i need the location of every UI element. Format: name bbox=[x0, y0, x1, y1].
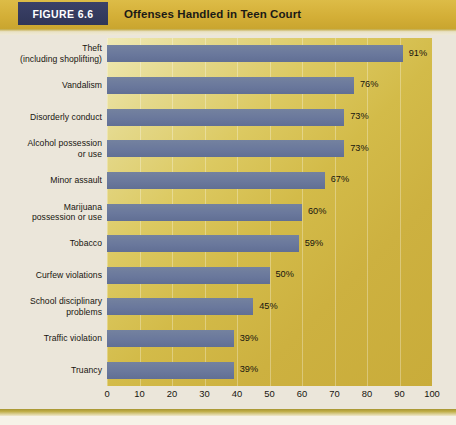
bottom-divider bbox=[0, 409, 456, 416]
bar-value-label: 60% bbox=[308, 207, 326, 216]
x-tick-label-80: 80 bbox=[362, 388, 372, 400]
category-label: Tobacco bbox=[0, 238, 102, 249]
category-label-line1: Alcohol possession bbox=[28, 138, 102, 148]
figure-number-label: FIGURE 6.6 bbox=[32, 8, 93, 20]
bar-value-label: 91% bbox=[409, 49, 427, 58]
category-label-line2: or use bbox=[0, 149, 102, 160]
category-label-line1: Tobacco bbox=[70, 238, 102, 248]
category-label-line1: School disciplinary bbox=[30, 296, 102, 306]
bar bbox=[107, 45, 403, 62]
figure-title: Offenses Handled in Teen Court bbox=[124, 0, 301, 29]
category-label-line1: Vandalism bbox=[62, 80, 102, 90]
bar-row: 59% bbox=[107, 235, 432, 252]
x-tick-label-50: 50 bbox=[264, 388, 274, 400]
x-tick-label-30: 30 bbox=[199, 388, 209, 400]
plot-right-margin bbox=[432, 38, 456, 386]
category-label-line1: Truancy bbox=[71, 365, 102, 375]
category-label-line2: (including shoplifting) bbox=[0, 54, 102, 65]
category-label: School disciplinaryproblems bbox=[0, 296, 102, 317]
bar-value-label: 50% bbox=[276, 270, 294, 279]
category-label-line1: Minor assault bbox=[50, 175, 102, 185]
x-tick-label-90: 90 bbox=[394, 388, 404, 400]
header-divider bbox=[0, 29, 456, 35]
category-label-line1: Marijuana bbox=[64, 202, 102, 212]
category-label-line2: possession or use bbox=[0, 212, 102, 223]
bar-row: 73% bbox=[107, 140, 432, 157]
bar bbox=[107, 298, 253, 315]
bar bbox=[107, 204, 302, 221]
category-label: Alcohol possessionor use bbox=[0, 138, 102, 159]
bar bbox=[107, 77, 354, 94]
x-tick-label-0: 0 bbox=[104, 388, 109, 400]
x-tick-label-10: 10 bbox=[134, 388, 144, 400]
x-axis: 0102030405060708090100 bbox=[107, 388, 432, 406]
bar bbox=[107, 330, 234, 347]
category-label: Disorderly conduct bbox=[0, 112, 102, 123]
bar-row: 67% bbox=[107, 172, 432, 189]
bar-value-label: 59% bbox=[305, 239, 323, 248]
category-label: Marijuanapossession or use bbox=[0, 202, 102, 223]
bar bbox=[107, 267, 270, 284]
bar bbox=[107, 140, 344, 157]
x-tick-label-60: 60 bbox=[297, 388, 307, 400]
bar bbox=[107, 172, 325, 189]
category-label-line2: problems bbox=[0, 307, 102, 318]
bar-row: 45% bbox=[107, 298, 432, 315]
bar-row: 50% bbox=[107, 267, 432, 284]
bar-row: 39% bbox=[107, 362, 432, 379]
category-label-line1: Disorderly conduct bbox=[30, 112, 102, 122]
figure-container: FIGURE 6.6 Offenses Handled in Teen Cour… bbox=[0, 0, 456, 425]
category-label-line1: Curfew violations bbox=[36, 270, 102, 280]
bar-value-label: 39% bbox=[240, 334, 258, 343]
bar-value-label: 67% bbox=[331, 175, 349, 184]
figure-header-band: FIGURE 6.6 Offenses Handled in Teen Cour… bbox=[0, 0, 456, 29]
bar-value-label: 73% bbox=[350, 144, 368, 153]
x-tick-label-70: 70 bbox=[329, 388, 339, 400]
bar-row: 91% bbox=[107, 45, 432, 62]
bar-value-label: 39% bbox=[240, 365, 258, 374]
bottom-page-fill bbox=[0, 416, 456, 425]
figure-number-badge: FIGURE 6.6 bbox=[18, 2, 108, 25]
bar-value-label: 45% bbox=[259, 302, 277, 311]
category-label-line1: Theft bbox=[82, 43, 102, 53]
chart-plot-area: 91%76%73%73%67%60%59%50%45%39%39% bbox=[107, 38, 432, 386]
x-tick-label-100: 100 bbox=[424, 388, 440, 400]
bar bbox=[107, 362, 234, 379]
bar-value-label: 73% bbox=[350, 112, 368, 121]
category-label-line1: Traffic violation bbox=[44, 333, 102, 343]
bar bbox=[107, 235, 299, 252]
x-tick-label-20: 20 bbox=[167, 388, 177, 400]
bar-row: 60% bbox=[107, 204, 432, 221]
bar bbox=[107, 109, 344, 126]
category-label: Minor assault bbox=[0, 175, 102, 186]
category-label: Theft(including shoplifting) bbox=[0, 43, 102, 64]
category-label: Truancy bbox=[0, 365, 102, 376]
category-label: Traffic violation bbox=[0, 333, 102, 344]
bar-row: 76% bbox=[107, 77, 432, 94]
category-label: Vandalism bbox=[0, 80, 102, 91]
bar-value-label: 76% bbox=[360, 80, 378, 89]
category-label: Curfew violations bbox=[0, 270, 102, 281]
bar-row: 73% bbox=[107, 109, 432, 126]
x-tick-label-40: 40 bbox=[232, 388, 242, 400]
category-label-column: Theft(including shoplifting)VandalismDis… bbox=[0, 38, 107, 386]
bar-row: 39% bbox=[107, 330, 432, 347]
